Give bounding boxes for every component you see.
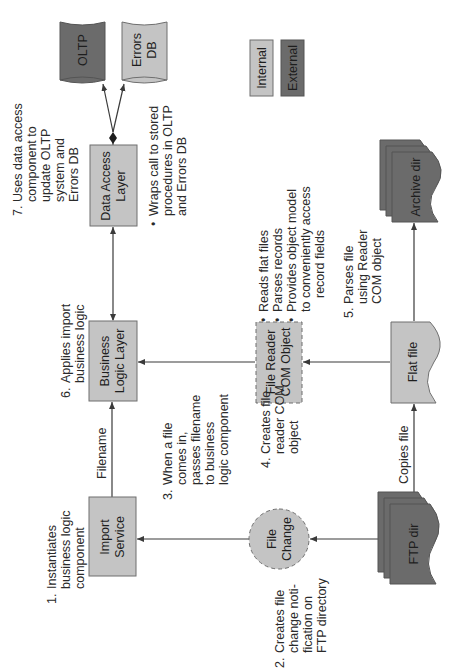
svg-text:7.: 7. bbox=[11, 206, 25, 216]
svg-text:OLTP: OLTP bbox=[76, 34, 90, 66]
svg-text:Uses data access: Uses data access bbox=[11, 103, 25, 202]
svg-text:Service: Service bbox=[113, 516, 127, 558]
edge-label-filename: Filename bbox=[95, 428, 109, 479]
svg-text:Creates file: Creates file bbox=[273, 590, 287, 653]
node-oltp-database: OLTP bbox=[60, 22, 105, 83]
svg-text:Creates file: Creates file bbox=[259, 391, 273, 454]
svg-text:Parses records: Parses records bbox=[271, 228, 285, 312]
svg-text:Logic Layer: Logic Layer bbox=[113, 329, 127, 394]
svg-text:update OLTP: update OLTP bbox=[39, 129, 53, 202]
step-7-annotation: 7. Uses data access component to update … bbox=[11, 103, 81, 216]
svg-text:reader COM: reader COM bbox=[273, 385, 287, 454]
file-reader-notes: • Reads flat files • Parses records • Pr… bbox=[257, 186, 327, 322]
svg-text:Business: Business bbox=[98, 336, 112, 387]
svg-text:FTP dir: FTP dir bbox=[407, 524, 421, 565]
svg-text:DB: DB bbox=[145, 41, 159, 58]
svg-text:passes filename: passes filename bbox=[189, 395, 203, 485]
svg-text:business logic: business logic bbox=[59, 510, 73, 589]
architecture-diagram: Internal External Filename Copies file bbox=[0, 0, 451, 668]
svg-text:record fields: record fields bbox=[313, 230, 327, 298]
svg-text:COM object: COM object bbox=[370, 237, 384, 304]
svg-text:Instantiates: Instantiates bbox=[45, 525, 59, 589]
svg-text:system and: system and bbox=[53, 138, 67, 202]
svg-text:4.: 4. bbox=[259, 458, 273, 468]
svg-text:component to: component to bbox=[25, 126, 39, 202]
svg-text:2.: 2. bbox=[273, 658, 287, 668]
node-errors-db: Errors DB bbox=[122, 22, 167, 83]
svg-text:•: • bbox=[271, 318, 285, 322]
legend-external-label: External bbox=[286, 45, 300, 91]
node-archive-dir: Archive dir bbox=[380, 140, 441, 222]
svg-text:When a file: When a file bbox=[161, 422, 175, 485]
svg-text:•: • bbox=[285, 318, 299, 322]
svg-text:business logic: business logic bbox=[73, 304, 87, 383]
svg-text:Errors: Errors bbox=[130, 33, 144, 67]
svg-text:3.: 3. bbox=[161, 490, 175, 500]
svg-text:component: component bbox=[73, 527, 87, 589]
node-business-logic-layer: Business Logic Layer bbox=[89, 321, 137, 401]
svg-text:and Errors DB: and Errors DB bbox=[175, 137, 189, 216]
edge-to-errors-db bbox=[113, 84, 124, 132]
node-file-change: File Change bbox=[249, 509, 309, 569]
svg-text:5.: 5. bbox=[342, 308, 356, 318]
svg-text:•: • bbox=[257, 318, 271, 322]
svg-text:1.: 1. bbox=[45, 594, 59, 604]
svg-text:using Reader: using Reader bbox=[356, 230, 370, 304]
node-data-access-layer: Data Access Layer bbox=[90, 145, 137, 226]
node-flat-file: Flat file bbox=[391, 322, 440, 403]
node-ftp-dir: FTP dir bbox=[378, 492, 439, 584]
svg-text:File: File bbox=[265, 529, 279, 549]
svg-text:File Reader: File Reader bbox=[264, 330, 278, 395]
svg-text:procedures in OLTP: procedures in OLTP bbox=[161, 105, 175, 216]
svg-text:•: • bbox=[147, 222, 161, 226]
svg-text:logic component: logic component bbox=[217, 393, 231, 485]
svg-text:to business: to business bbox=[203, 422, 217, 485]
svg-text:Provides object model: Provides object model bbox=[285, 189, 299, 312]
svg-text:fication on: fication on bbox=[301, 596, 315, 653]
svg-text:Import: Import bbox=[98, 519, 112, 555]
svg-text:Data Access: Data Access bbox=[99, 151, 113, 220]
legend: Internal External bbox=[250, 40, 304, 96]
svg-text:Reads flat files: Reads flat files bbox=[257, 230, 271, 312]
svg-text:Layer: Layer bbox=[114, 170, 128, 201]
step-2-annotation: 2. Creates file change noti- fication on… bbox=[273, 577, 329, 668]
svg-text:Flat file: Flat file bbox=[406, 342, 420, 382]
svg-text:object: object bbox=[287, 420, 301, 454]
step-1-annotation: 1. Instantiates business logic component bbox=[45, 510, 87, 604]
svg-text:Wraps call to stored: Wraps call to stored bbox=[147, 106, 161, 216]
svg-text:to conveniently access: to conveniently access bbox=[299, 186, 313, 312]
data-access-note: • Wraps call to stored procedures in OLT… bbox=[147, 105, 189, 226]
node-import-service: Import Service bbox=[89, 497, 136, 576]
step-6-annotation: 6. Applies import business logic bbox=[59, 303, 87, 398]
svg-text:6.: 6. bbox=[59, 388, 73, 398]
svg-text:comes in,: comes in, bbox=[175, 432, 189, 486]
svg-text:Applies import: Applies import bbox=[59, 303, 73, 383]
step-5-annotation: 5. Parses file using Reader COM object bbox=[342, 230, 384, 318]
aggregation-diamond bbox=[109, 132, 117, 144]
svg-text:FTP directory: FTP directory bbox=[315, 577, 329, 653]
step-3-annotation: 3. When a file comes in, passes filename… bbox=[161, 393, 231, 500]
edge-to-oltp bbox=[103, 84, 113, 132]
svg-text:Errors DB: Errors DB bbox=[67, 147, 81, 202]
legend-internal-label: Internal bbox=[255, 47, 269, 89]
svg-text:change noti-: change noti- bbox=[287, 584, 301, 653]
edge-label-copies-file: Copies file bbox=[397, 426, 411, 484]
svg-text:Archive dir: Archive dir bbox=[409, 157, 423, 216]
svg-text:Change: Change bbox=[280, 517, 294, 561]
svg-text:Parses file: Parses file bbox=[342, 246, 356, 304]
